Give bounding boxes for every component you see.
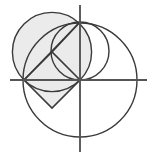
geometry-figure <box>0 0 155 158</box>
geometry-canvas <box>0 0 155 158</box>
